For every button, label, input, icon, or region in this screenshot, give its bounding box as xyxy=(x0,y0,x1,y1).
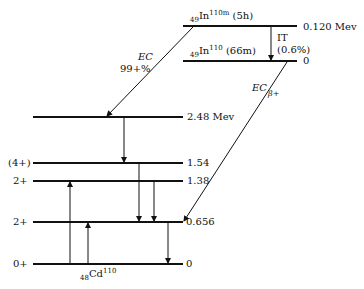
spin-0.656: 2+ xyxy=(13,217,28,227)
energy-0.656: 0.656 xyxy=(186,217,215,227)
energy-0: 0 xyxy=(186,259,192,269)
energy-parent-0: 0 xyxy=(303,56,309,66)
energy-1.54: 1.54 xyxy=(187,158,209,168)
in110-label: 49In110 (66m) xyxy=(190,45,256,59)
spin-1.38: 2+ xyxy=(13,176,28,186)
energy-0.120: 0.120 Mev xyxy=(303,22,357,32)
ec-ground-label: EC xyxy=(252,83,267,93)
spin-0: 0+ xyxy=(13,259,28,269)
in110m-label: 49In110m (5h) xyxy=(190,10,253,24)
spin-1.54: (4+) xyxy=(8,158,31,168)
it-branch: (0.6%) xyxy=(277,45,310,55)
cd110-label: 48Cd110 xyxy=(80,268,116,282)
it-label: IT xyxy=(277,33,288,43)
beta-plus-label: β+ xyxy=(268,90,279,98)
ec-meta-branch: 99+% xyxy=(120,64,151,74)
ec-beta-arrow xyxy=(184,62,287,221)
energy-1.38: 1.38 xyxy=(187,176,209,186)
ec-meta-label: EC xyxy=(138,52,153,62)
energy-2.48: 2.48 Mev xyxy=(187,112,234,122)
